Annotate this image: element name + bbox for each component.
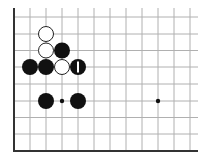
white-stone[interactable]: [39, 43, 54, 58]
star-point-icon: [60, 99, 64, 103]
star-point-icon: [156, 99, 160, 103]
black-stone[interactable]: [38, 59, 54, 75]
white-stone[interactable]: [55, 60, 70, 75]
stones-layer: [22, 27, 86, 110]
black-stone[interactable]: [70, 59, 86, 75]
last-move-marker-icon: [77, 62, 79, 73]
go-board[interactable]: [0, 0, 212, 160]
black-stone[interactable]: [38, 93, 54, 109]
black-stone[interactable]: [22, 59, 38, 75]
white-stone[interactable]: [39, 27, 54, 42]
black-stone[interactable]: [70, 93, 86, 109]
black-stone[interactable]: [54, 43, 70, 59]
